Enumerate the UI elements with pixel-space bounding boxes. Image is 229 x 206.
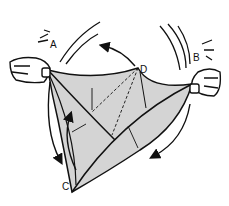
corner-label-b: B — [193, 53, 200, 63]
paper-sheet — [48, 68, 192, 192]
motion-lines — [38, 22, 214, 70]
corner-label-c: C — [62, 182, 69, 192]
arrow-d-back-icon — [104, 46, 135, 66]
corner-label-a: A — [50, 40, 57, 50]
folding-illustration — [0, 0, 229, 206]
left-hand-icon — [10, 58, 50, 83]
right-hand-icon — [190, 69, 220, 96]
folding-diagram: A B C D — [0, 0, 229, 206]
corner-label-d: D — [140, 65, 147, 75]
